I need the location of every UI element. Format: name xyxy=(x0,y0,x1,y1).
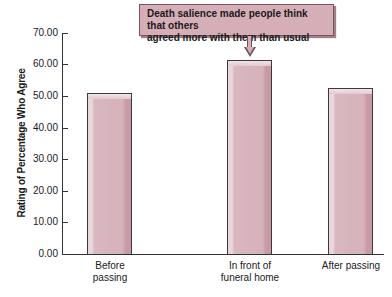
y-tick xyxy=(62,64,68,65)
y-tick xyxy=(62,254,68,255)
y-tick xyxy=(62,191,68,192)
y-tick-label: 70.00 xyxy=(20,28,58,38)
y-axis-label: Rating of Percentage Who Agree xyxy=(16,58,30,228)
y-tick xyxy=(62,128,68,129)
annotation-callout: Death salience made people think that ot… xyxy=(139,4,334,36)
x-axis-line xyxy=(62,254,384,255)
y-tick-label: 30.00 xyxy=(20,154,58,164)
y-tick xyxy=(62,33,68,34)
y-tick-label: 50.00 xyxy=(20,91,58,101)
y-tick-label: 20.00 xyxy=(20,186,58,196)
x-tick-label-in-front-of-funeral-home: In front of funeral home xyxy=(205,260,295,284)
arrow-down-icon-inner xyxy=(246,47,254,54)
y-tick xyxy=(62,96,68,97)
bar-after-passing xyxy=(328,88,373,254)
y-tick-label: 60.00 xyxy=(20,59,58,69)
x-tick-label-before-passing: Before passing xyxy=(65,260,155,284)
y-tick xyxy=(62,222,68,223)
y-tick-label: 40.00 xyxy=(20,123,58,133)
x-tick-label-after-passing: After passing xyxy=(306,260,392,272)
y-tick-label: 10.00 xyxy=(20,217,58,227)
bar-before-passing xyxy=(87,93,132,254)
bar-chart: Rating of Percentage Who Agree 0.00 10.0… xyxy=(0,0,392,297)
y-tick-label: 0.00 xyxy=(20,249,58,259)
bar-in-front-of-funeral-home xyxy=(227,60,272,254)
y-tick xyxy=(62,159,68,160)
